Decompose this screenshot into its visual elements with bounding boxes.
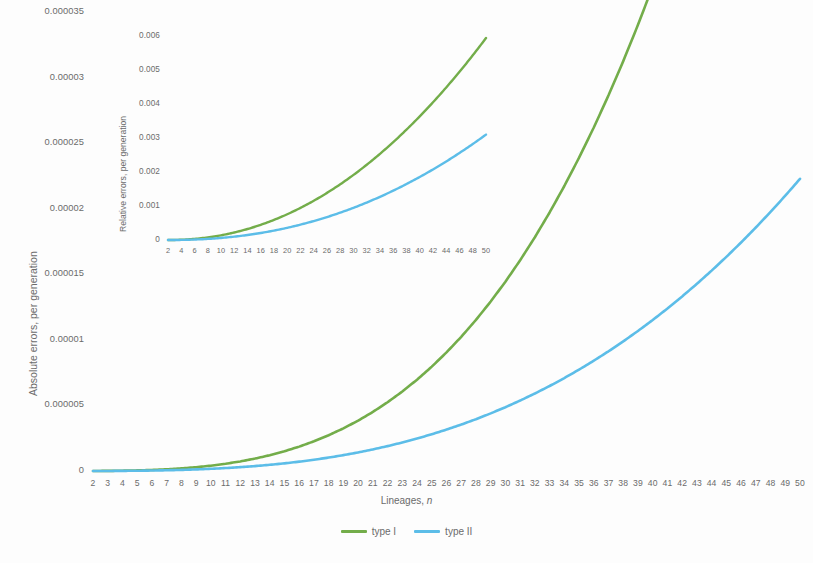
main-chart-x-axis-title: Lineages, n	[0, 495, 813, 506]
inset-chart-plot-area	[110, 8, 500, 266]
legend-swatch-icon	[341, 530, 367, 532]
main-chart-y-axis-title: Absolute errors, per generation	[27, 251, 39, 396]
main-y-tick-label: 0.00003	[0, 72, 84, 82]
series-line-type-ii	[168, 135, 486, 240]
main-x-tick-label: 50	[790, 478, 810, 488]
main-y-tick-label: 0.00002	[0, 203, 84, 213]
chart-legend: type Itype II	[0, 526, 813, 537]
legend-item-label: type I	[372, 526, 396, 537]
figure-absolute-and-relative-errors: 00.0000050.000010.0000150.000020.0000250…	[0, 0, 813, 563]
series-line-type-i	[168, 38, 486, 240]
main-y-tick-label: 0.000025	[0, 137, 84, 147]
legend-item-type-ii[interactable]: type II	[414, 526, 472, 537]
main-chart-x-axis-title-text: Lineages,	[381, 495, 427, 506]
legend-item-type-i[interactable]: type I	[341, 526, 396, 537]
main-y-tick-label: 0.000015	[0, 268, 84, 278]
inset-y-tick-label: 0	[110, 235, 160, 244]
main-y-tick-label: 0.000005	[0, 399, 84, 409]
main-chart-x-axis-title-variable: n	[427, 495, 433, 506]
legend-item-label: type II	[445, 526, 472, 537]
inset-chart-y-axis-title: Relative errors, per generation	[118, 116, 128, 232]
inset-y-tick-label: 0.006	[110, 31, 160, 40]
inset-x-tick-label: 50	[478, 246, 494, 255]
inset-y-tick-label: 0.004	[110, 99, 160, 108]
main-y-tick-label: 0	[0, 465, 84, 475]
inset-chart: 00.0010.0020.0030.0040.0050.006 24681012…	[110, 8, 500, 266]
main-y-tick-label: 0.000035	[0, 6, 84, 16]
legend-swatch-icon	[414, 530, 440, 532]
inset-y-tick-label: 0.005	[110, 65, 160, 74]
main-y-tick-label: 0.00001	[0, 334, 84, 344]
